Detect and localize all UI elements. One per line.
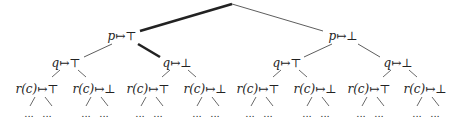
leaf-ellipsis: ... bbox=[192, 108, 202, 119]
leaf-ellipsis: ... bbox=[374, 108, 384, 119]
tree-node-level1: p↦⊤ bbox=[107, 30, 136, 42]
edge bbox=[358, 44, 380, 57]
tree-node-level3: r(c)↦⊥ bbox=[293, 83, 336, 95]
tree-node-level3: r(c)↦⊤ bbox=[347, 83, 390, 95]
edge bbox=[304, 44, 332, 57]
leaf-ellipsis: ... bbox=[42, 108, 52, 119]
leaf-ellipsis: ... bbox=[412, 108, 422, 119]
leaf-ellipsis: ... bbox=[135, 108, 145, 119]
leaf-ellipsis: ... bbox=[24, 108, 34, 119]
leaf-ellipsis: ... bbox=[263, 108, 273, 119]
leaf-ellipsis: ... bbox=[430, 108, 440, 119]
leaf-ellipsis: ... bbox=[245, 108, 255, 119]
tree-node-level3: r(c)↦⊤ bbox=[126, 83, 169, 95]
tree-node-level3: r(c)↦⊥ bbox=[72, 83, 115, 95]
edge-root-p-true bbox=[140, 4, 232, 31]
leaf-ellipsis: ... bbox=[302, 108, 312, 119]
tree-node-level3: r(c)↦⊥ bbox=[403, 83, 446, 95]
edge bbox=[84, 44, 112, 57]
tree-node-level2: q↦⊤ bbox=[272, 57, 301, 69]
leaf-ellipsis: ... bbox=[356, 108, 366, 119]
leaf-ellipsis: ... bbox=[81, 108, 91, 119]
tree-node-level2: q↦⊤ bbox=[51, 57, 80, 69]
tree-node-level3: r(c)↦⊤ bbox=[15, 83, 58, 95]
leaf-ellipsis: ... bbox=[210, 108, 220, 119]
edge-highlight bbox=[138, 44, 160, 57]
tree-node-level2: q↦⊥ bbox=[162, 57, 191, 69]
tree-node-level2: q↦⊥ bbox=[383, 57, 412, 69]
tree-node-level3: r(c)↦⊤ bbox=[236, 83, 279, 95]
leaf-ellipsis: ... bbox=[320, 108, 330, 119]
leaf-ellipsis: ... bbox=[99, 108, 109, 119]
tree-node-level1: p↦⊥ bbox=[328, 30, 357, 42]
tree-node-level3: r(c)↦⊥ bbox=[183, 83, 226, 95]
leaf-ellipsis: ... bbox=[153, 108, 163, 119]
edge-root-p-false bbox=[232, 4, 323, 31]
